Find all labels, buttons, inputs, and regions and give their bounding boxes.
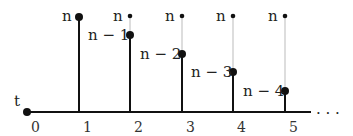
- stem-4: n n − 3: [191, 7, 237, 112]
- top-dot: [128, 14, 133, 19]
- tick-label-3: 3: [186, 119, 195, 135]
- origin-label: t: [14, 92, 20, 110]
- value-label: n − 1: [88, 26, 129, 44]
- value-dot: [75, 13, 83, 21]
- value-label: n − 3: [191, 63, 232, 81]
- stem-2: n n − 1: [88, 7, 134, 112]
- tick-label-2: 2: [134, 119, 143, 135]
- top-label: n: [62, 7, 72, 25]
- top-label: n: [113, 7, 123, 25]
- top-label: n: [268, 7, 278, 25]
- value-label: n − 2: [140, 45, 181, 63]
- top-label: n: [165, 7, 175, 25]
- tick-label-0: 0: [31, 119, 40, 135]
- stem-5: n n − 4: [243, 7, 289, 112]
- stem-diagram: t . . . 0 1 2 3 4 5 n n n − 1 n n − 2 n …: [0, 0, 353, 136]
- top-dot: [180, 14, 185, 19]
- top-dot: [231, 14, 236, 19]
- top-label: n: [216, 7, 226, 25]
- stem-1: n: [62, 7, 83, 112]
- top-dot: [283, 14, 288, 19]
- tick-label-5: 5: [289, 119, 298, 135]
- origin-dot: [23, 108, 31, 116]
- continuation-ellipsis: . . .: [316, 100, 340, 118]
- tick-label-4: 4: [237, 119, 246, 135]
- value-label: n − 4: [243, 82, 284, 100]
- stem-3: n n − 2: [140, 7, 186, 112]
- tick-label-1: 1: [83, 119, 92, 135]
